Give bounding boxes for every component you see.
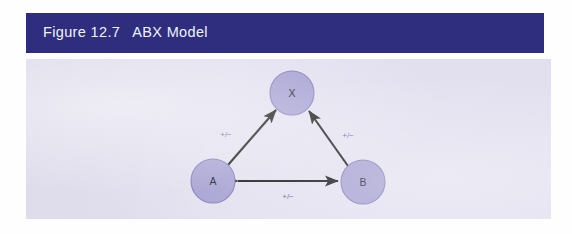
figure-panel: X A B +/− +/− +/− (26, 59, 551, 219)
node-x-label: X (288, 87, 295, 99)
figure-header-text: Figure 12.7ABX Model (43, 24, 208, 40)
abx-model-diagram: X A B +/− +/− +/− (26, 59, 551, 219)
scanned-page: Figure 12.7ABX Model X A B +/− +/− (0, 0, 572, 234)
edge-a-to-x (228, 110, 276, 165)
edge-label-a-x: +/− (220, 130, 232, 139)
figure-number: Figure 12.7 (43, 24, 120, 40)
figure-header-bar: Figure 12.7ABX Model (26, 13, 544, 53)
node-b-label: B (359, 176, 366, 188)
node-a-label: A (209, 175, 216, 187)
edge-label-b-x: +/− (342, 131, 354, 140)
edge-label-a-b: +/− (282, 192, 294, 201)
figure-title: ABX Model (132, 24, 208, 40)
